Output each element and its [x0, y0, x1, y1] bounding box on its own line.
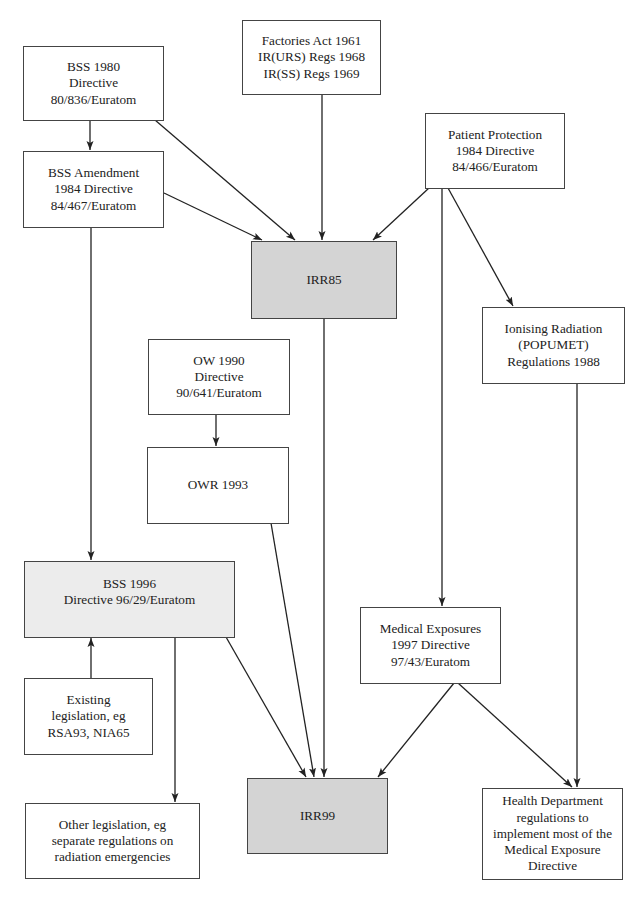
node-other-legislation: Other legislation, eg separate regulatio… [25, 803, 200, 879]
node-line: Directive [194, 369, 243, 385]
node-line: radiation emergencies [55, 849, 171, 865]
node-line: 1984 Directive [456, 143, 535, 159]
node-line: Regulations 1988 [507, 354, 600, 370]
arrow-patient-protection-to-popumet [448, 188, 513, 306]
node-ow-1990-directive: OW 1990 Directive 90/641/Euratom [148, 339, 290, 415]
node-bss-1996-directive: BSS 1996 Directive 96/29/Euratom [24, 561, 235, 638]
node-line: BSS 1980 [67, 59, 120, 75]
node-line: (POPUMET) [518, 337, 588, 353]
node-line: 1997 Directive [391, 637, 470, 653]
node-line: Directive [69, 75, 118, 91]
arrow-patient-protection-to-irr85 [373, 188, 429, 240]
node-irr99: IRR99 [247, 778, 388, 854]
node-line: IRR99 [300, 808, 335, 824]
node-health-department-regulations: Health Department regulations to impleme… [482, 788, 623, 880]
node-line: 90/641/Euratom [176, 385, 262, 401]
node-line: OWR 1993 [188, 477, 248, 493]
node-line: 80/836/Euratom [51, 92, 137, 108]
node-existing-legislation: Existing legislation, eg RSA93, NIA65 [24, 678, 153, 755]
node-line: separate regulations on [52, 833, 174, 849]
node-line: legislation, eg [52, 708, 126, 724]
node-line: Directive [528, 858, 577, 874]
node-line: 84/467/Euratom [51, 198, 137, 214]
node-bss-1980-directive: BSS 1980 Directive 80/836/Euratom [23, 46, 164, 121]
node-line: RSA93, NIA65 [47, 725, 129, 741]
node-line: Other legislation, eg [59, 817, 166, 833]
node-line: Ionising Radiation [505, 321, 603, 337]
arrow-medical-exposures-to-irr99 [378, 683, 454, 777]
node-line: Factories Act 1961 [262, 33, 362, 49]
node-factories-act: Factories Act 1961 IR(URS) Regs 1968 IR(… [242, 20, 381, 95]
node-bss-amendment: BSS Amendment 1984 Directive 84/467/Eura… [23, 151, 164, 228]
node-line: BSS Amendment [48, 165, 139, 181]
node-owr-1993: OWR 1993 [147, 447, 289, 524]
node-line: Existing [67, 692, 111, 708]
node-line: IRR85 [306, 272, 341, 288]
arrow-owr1993-to-irr99 [271, 523, 314, 777]
node-line: Directive 96/29/Euratom [64, 592, 195, 608]
node-line: IR(URS) Regs 1968 [258, 49, 365, 65]
node-line: 97/43/Euratom [391, 654, 470, 670]
node-irr85: IRR85 [251, 241, 397, 319]
arrow-bss-amendment-to-irr85 [164, 193, 262, 240]
node-line: IR(SS) Regs 1969 [264, 66, 360, 82]
node-line: BSS 1996 [103, 576, 156, 592]
node-line: 1984 Directive [54, 181, 133, 197]
node-line: 84/466/Euratom [452, 159, 538, 175]
node-line: regulations to [516, 810, 588, 826]
node-patient-protection: Patient Protection 1984 Directive 84/466… [425, 113, 565, 189]
node-line: Health Department [502, 793, 603, 809]
node-line: Medical Exposure [504, 842, 600, 858]
arrow-medical-exposures-to-health-department [458, 683, 572, 787]
node-popumet-regulations: Ionising Radiation (POPUMET) Regulations… [482, 307, 625, 384]
node-line: Patient Protection [448, 127, 542, 143]
node-line: OW 1990 [193, 353, 244, 369]
node-line: implement most of the [493, 826, 612, 842]
node-line: Medical Exposures [380, 621, 481, 637]
node-medical-exposures-directive: Medical Exposures 1997 Directive 97/43/E… [360, 607, 501, 684]
